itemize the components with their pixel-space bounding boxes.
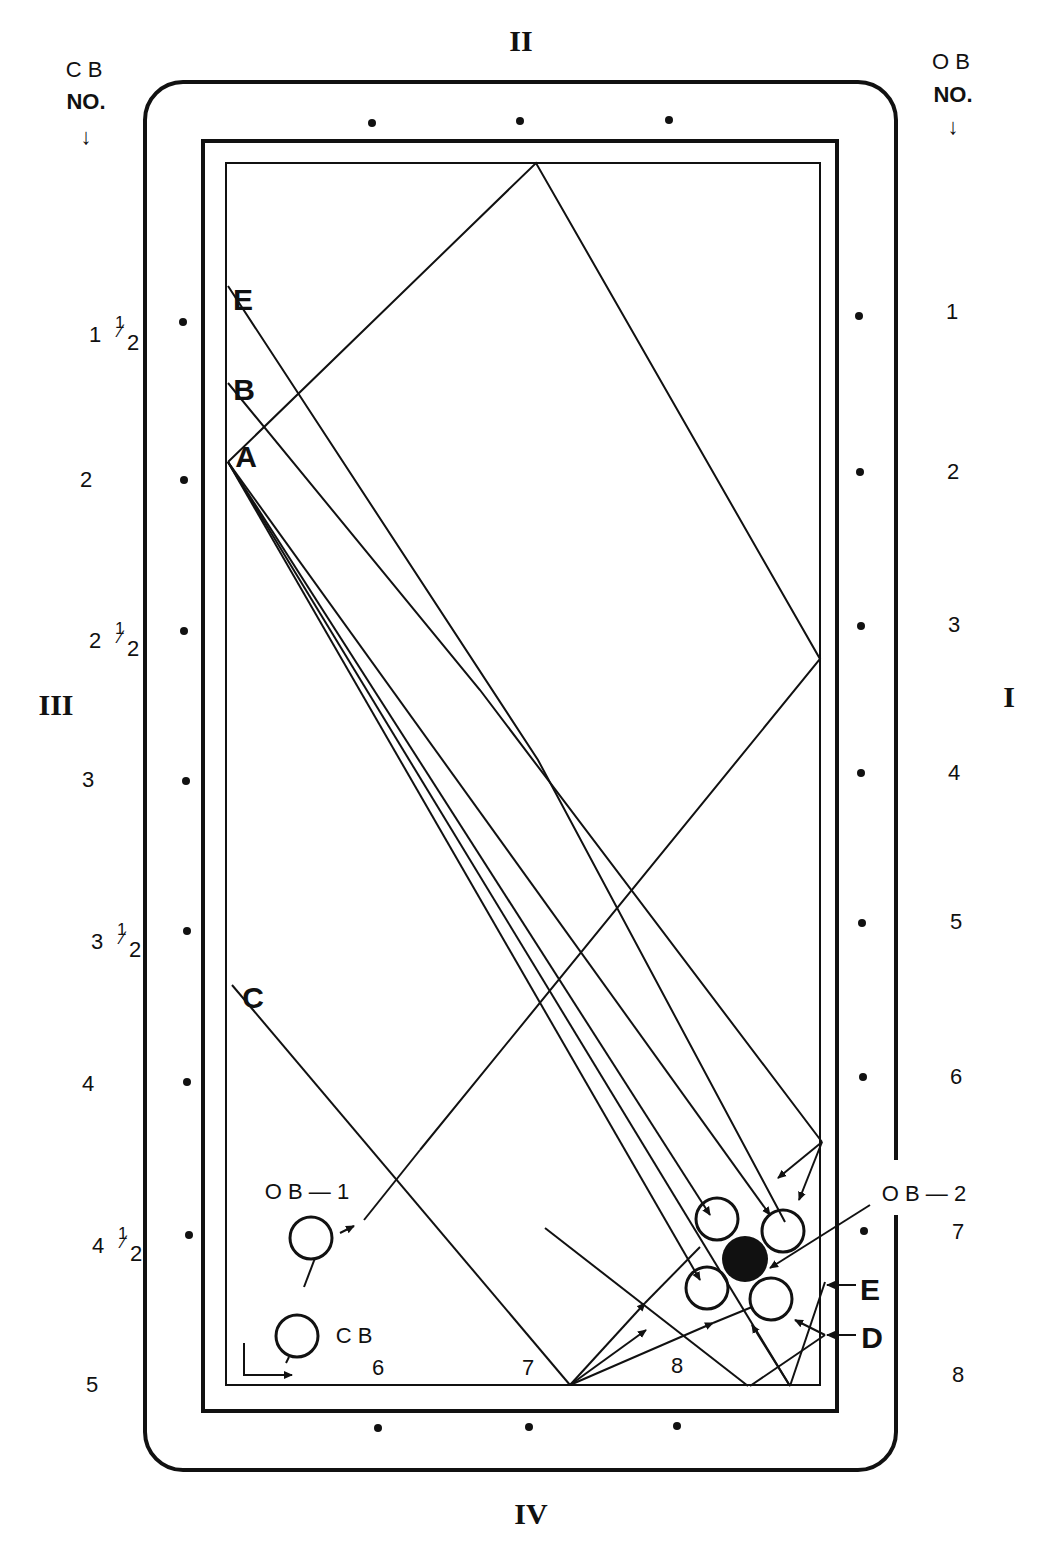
rail-label-top: II	[509, 26, 532, 56]
bottom-diamonds	[374, 1422, 681, 1432]
rail-label-bottom: IV	[514, 1499, 547, 1529]
path-label-c: C	[242, 983, 264, 1013]
rail-label-left: III	[38, 690, 73, 720]
ob-header-line2: NO.	[933, 84, 972, 106]
bottom-scale-6: 6	[372, 1357, 384, 1379]
cb-scale-2: 2	[80, 469, 92, 491]
cb-down-arrow-icon: ↓	[81, 126, 92, 148]
ob-scale-4: 4	[948, 762, 960, 784]
path-label-a: A	[235, 442, 257, 472]
cb-scale-4: 4	[82, 1073, 94, 1095]
top-diamonds	[368, 116, 673, 127]
ob-down-arrow-icon: ↓	[948, 116, 959, 138]
ob-scale-3: 3	[948, 614, 960, 636]
path-label-b: B	[233, 375, 255, 405]
left-diamonds	[179, 318, 193, 1239]
ob-scale-1: 1	[946, 301, 958, 323]
billiard-table-diagram	[0, 0, 1062, 1568]
ob2-label: O B — 2	[882, 1183, 966, 1205]
cluster-ball-upper-left	[696, 1198, 738, 1240]
cluster-ball-lower-right	[750, 1278, 792, 1320]
ob-scale-6: 6	[950, 1066, 962, 1088]
bottom-scale-8: 8	[671, 1355, 683, 1377]
cb-scale-5: 5	[86, 1374, 98, 1396]
rail-label-right: I	[1003, 682, 1015, 712]
path-label-e-start: E	[233, 285, 253, 315]
cb-header-line1: C B	[66, 59, 103, 81]
object-ball-2	[722, 1236, 768, 1282]
ob-scale-2: 2	[947, 461, 959, 483]
path-label-e-end: E	[860, 1275, 880, 1305]
cue-ball	[276, 1315, 318, 1357]
table-outer-frame	[145, 82, 896, 1470]
ob-scale-8: 8	[952, 1364, 964, 1386]
cb-header-line2: NO.	[66, 91, 105, 113]
ob-scale-7: 7	[952, 1221, 964, 1243]
right-diamonds	[855, 312, 868, 1235]
path-label-d: D	[861, 1323, 883, 1353]
ob-scale-5: 5	[950, 911, 962, 933]
ob1-label: O B — 1	[265, 1181, 349, 1203]
bottom-scale-7: 7	[522, 1357, 534, 1379]
ob-header-line1: O B	[932, 51, 970, 73]
cb-scale-3: 3	[82, 769, 94, 791]
cluster-ball-lower-left	[686, 1267, 728, 1309]
object-ball-1	[290, 1217, 332, 1259]
cb-label: C B	[336, 1325, 373, 1347]
